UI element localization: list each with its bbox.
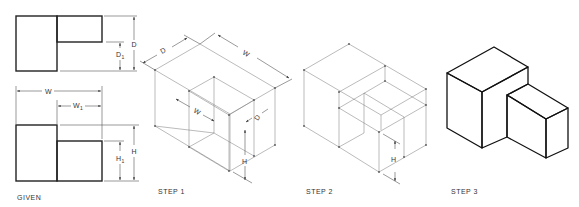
- step3-panel: STEP 3: [447, 47, 568, 195]
- small-block-right: [546, 108, 568, 158]
- top-view: D D 1: [16, 16, 137, 71]
- dim-H1-label: H: [116, 155, 121, 162]
- small-block-left: [507, 95, 546, 158]
- given-panel: D D 1 W W 1: [16, 16, 139, 201]
- step1-dim-D: D: [159, 46, 167, 55]
- dim-W1-label: W: [73, 102, 80, 109]
- svg-text:1: 1: [80, 105, 83, 111]
- step2-panel: H STEP 2: [303, 43, 427, 195]
- tall-block-left: [447, 73, 482, 148]
- step2-label: STEP 2: [306, 188, 333, 195]
- svg-text:1: 1: [122, 54, 125, 60]
- step1-label: STEP 1: [158, 188, 185, 195]
- dim-D1-label: D: [116, 51, 121, 58]
- front-view: W W 1 H H 1: [16, 86, 139, 181]
- dim-D-label: D: [132, 41, 137, 48]
- step2-dim-H1: H: [391, 156, 396, 163]
- step1-dim-W1: W: [192, 107, 202, 117]
- tall-block-right: [482, 67, 528, 148]
- step3-label: STEP 3: [451, 188, 478, 195]
- given-label: GIVEN: [17, 194, 41, 201]
- step1-panel: D W W D H STEP 1: [140, 33, 292, 195]
- tall-block-top: [447, 47, 528, 92]
- dim-H-label: H: [132, 148, 137, 155]
- svg-text:1: 1: [122, 158, 125, 164]
- step1-dim-W: W: [241, 49, 251, 59]
- dim-W-label: W: [45, 88, 52, 95]
- step1-dim-H1: H: [242, 158, 247, 165]
